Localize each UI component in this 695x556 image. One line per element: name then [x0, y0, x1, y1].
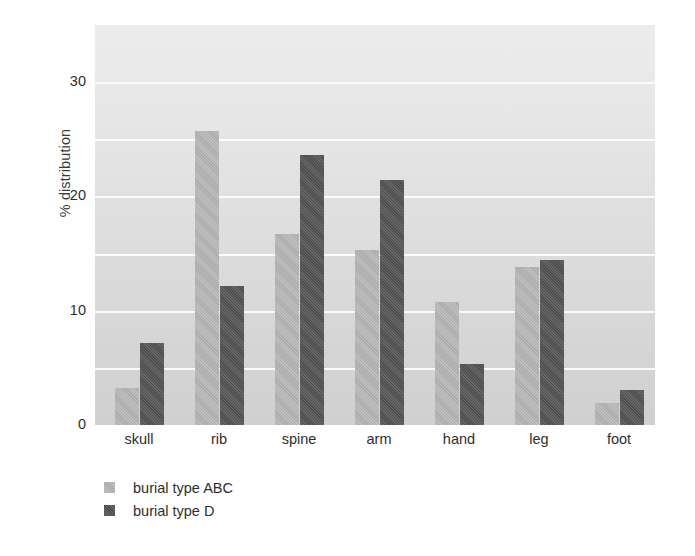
x-axis-tick-label-skull: skull — [94, 430, 184, 448]
bar-skull-abc[interactable] — [115, 388, 139, 425]
bar-group-foot — [595, 25, 644, 425]
bar-rib-d[interactable] — [220, 286, 244, 425]
x-axis-tick-label-rib: rib — [174, 430, 264, 448]
bar-hand-d[interactable] — [460, 364, 484, 425]
legend-label: burial type ABC — [133, 480, 233, 496]
legend-label: burial type D — [133, 503, 214, 519]
plot-area — [95, 25, 655, 425]
y-axis-tick-label: 0 — [46, 417, 86, 432]
bar-foot-d[interactable] — [620, 390, 644, 425]
bar-rib-abc[interactable] — [195, 131, 219, 425]
y-axis-tick-label: 20 — [46, 188, 86, 203]
bar-arm-d[interactable] — [380, 180, 404, 425]
bar-chart-figure: % distribution 3020100 skullribspinearmh… — [0, 0, 695, 556]
bar-group-skull — [115, 25, 164, 425]
bar-group-hand — [435, 25, 484, 425]
bar-group-spine — [275, 25, 324, 425]
legend-swatch-series-d — [104, 505, 115, 516]
x-axis-tick-label-spine: spine — [254, 430, 344, 448]
bar-hand-abc[interactable] — [435, 302, 459, 425]
y-axis-tick-label: 30 — [46, 74, 86, 89]
bar-skull-d[interactable] — [140, 343, 164, 425]
legend-swatch-series-abc — [104, 482, 115, 493]
y-axis-tick-label: 10 — [46, 303, 86, 318]
x-axis-tick-labels: skullribspinearmhandlegfoot — [95, 430, 655, 454]
bar-group-leg — [515, 25, 564, 425]
bar-arm-abc[interactable] — [355, 250, 379, 425]
bar-spine-abc[interactable] — [275, 234, 299, 425]
chart-legend: burial type ABCburial type D — [104, 476, 233, 522]
bar-group-rib — [195, 25, 244, 425]
bar-foot-abc[interactable] — [595, 403, 619, 425]
bar-spine-d[interactable] — [300, 155, 324, 425]
x-axis-tick-label-foot: foot — [574, 430, 664, 448]
legend-item-series-abc[interactable]: burial type ABC — [104, 476, 233, 499]
x-axis-tick-label-arm: arm — [334, 430, 424, 448]
legend-item-series-d[interactable]: burial type D — [104, 499, 233, 522]
x-axis-tick-label-hand: hand — [414, 430, 504, 448]
x-axis-tick-label-leg: leg — [494, 430, 584, 448]
bar-group-arm — [355, 25, 404, 425]
bar-leg-d[interactable] — [540, 260, 564, 425]
y-axis-tick-labels: 3020100 — [38, 0, 86, 556]
bar-leg-abc[interactable] — [515, 267, 539, 425]
